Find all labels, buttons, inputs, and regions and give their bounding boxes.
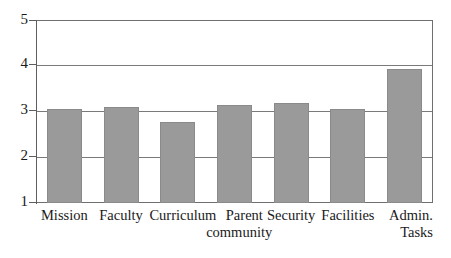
bar-2 bbox=[160, 122, 195, 203]
bar-3 bbox=[217, 105, 252, 203]
x-axis-labels: MissionFacultyCurriculumParent community… bbox=[20, 207, 445, 253]
x-axis-label-2: Curriculum bbox=[149, 207, 206, 224]
bar-6 bbox=[387, 69, 422, 203]
x-axis-label-0: Mission bbox=[36, 207, 93, 224]
x-axis-label-5: Facilities bbox=[320, 207, 377, 224]
bars-layer bbox=[36, 20, 433, 203]
y-tick-label-2: 2 bbox=[14, 148, 28, 163]
bar-4 bbox=[274, 103, 309, 203]
bar-5 bbox=[330, 109, 365, 203]
y-tick-label-5: 5 bbox=[14, 12, 28, 27]
x-axis-label-1: Faculty bbox=[93, 207, 150, 224]
bar-chart-figure: 5 4 3 2 1 MissionFacultyCurriculumParent… bbox=[0, 0, 451, 258]
y-tick-label-4: 4 bbox=[14, 56, 28, 71]
y-tick-label-3: 3 bbox=[14, 102, 28, 117]
bar-1 bbox=[104, 107, 139, 203]
x-axis-label-4: Security bbox=[263, 207, 320, 224]
x-axis-label-6: Admin. Tasks bbox=[376, 207, 433, 241]
x-axis-label-3: Parent community bbox=[206, 207, 263, 241]
bar-0 bbox=[47, 109, 82, 203]
